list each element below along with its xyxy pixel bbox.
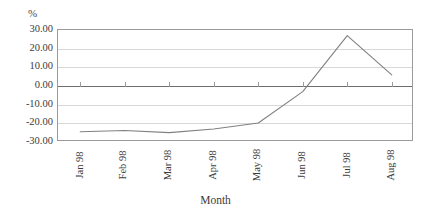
series-line-1 xyxy=(58,30,414,142)
y-axis-tick-labels: 30.0020.0010.000.00-10.00-20.00-30.00 xyxy=(0,29,53,141)
x-axis-tick-label: Aug 98 xyxy=(367,143,415,187)
x-axis-tick-label-text: May 98 xyxy=(251,149,263,181)
plot-area xyxy=(57,29,413,141)
line-chart: % 30.0020.0010.000.00-10.00-20.00-30.00 … xyxy=(0,0,431,219)
x-axis-tick-label-text: Jan 98 xyxy=(73,151,85,178)
y-axis-tick-label: -20.00 xyxy=(0,116,53,127)
x-axis-tick-label: Mar 98 xyxy=(144,143,192,187)
y-axis-tick-label: 10.00 xyxy=(0,60,53,71)
x-axis-tick-label: Jun 98 xyxy=(278,143,326,187)
y-axis-tick-label: 30.00 xyxy=(0,23,53,34)
x-axis-tick-label-text: Jul 98 xyxy=(340,152,352,177)
x-axis-tick-label: Apr 98 xyxy=(189,143,237,187)
x-axis-tick-label-text: Mar 98 xyxy=(162,150,174,181)
x-axis-tick-label: Jan 98 xyxy=(55,143,103,187)
x-axis-tick-labels: Jan 98Feb 98Mar 98Apr 98May 98Jun 98Jul … xyxy=(57,143,413,191)
x-axis-tick-label: Jul 98 xyxy=(322,143,370,187)
y-axis-tick-label: 20.00 xyxy=(0,42,53,53)
x-axis-title: Month xyxy=(0,194,431,207)
x-axis-tick-label-text: Jun 98 xyxy=(296,151,308,179)
y-axis-tick-label: -10.00 xyxy=(0,98,53,109)
x-axis-tick-label-text: Apr 98 xyxy=(207,150,219,179)
x-axis-tick-label-text: Aug 98 xyxy=(385,149,397,180)
y-axis-tick-label: -30.00 xyxy=(0,135,53,146)
y-axis-tick-label: 0.00 xyxy=(0,79,53,90)
x-axis-tick-label: Feb 98 xyxy=(100,143,148,187)
x-axis-tick-label-text: Feb 98 xyxy=(118,151,130,180)
y-axis-unit-label: % xyxy=(28,7,37,19)
x-axis-tick-label: May 98 xyxy=(233,143,281,187)
